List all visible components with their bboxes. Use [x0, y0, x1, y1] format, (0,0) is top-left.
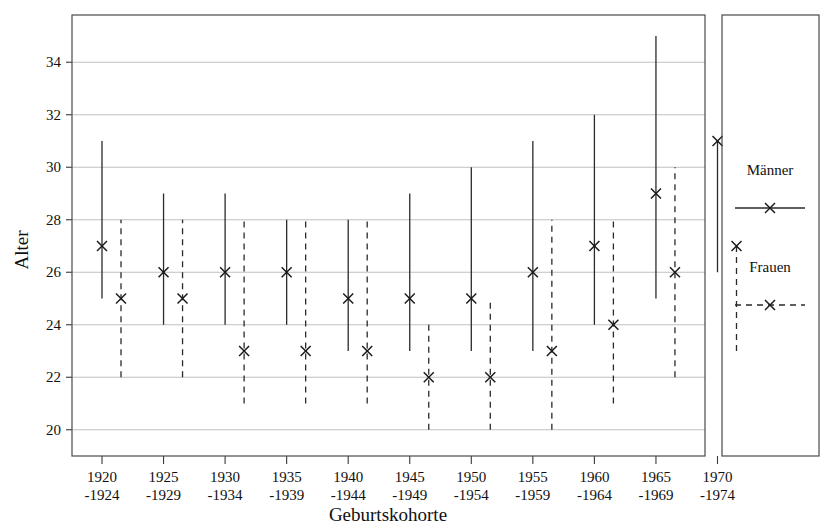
data-point-group: [528, 141, 538, 351]
x-tick-label: -1934: [208, 487, 243, 503]
gridlines: [66, 62, 705, 430]
y-tick-label: 20: [46, 422, 61, 438]
x-tick-label: 1970: [703, 469, 733, 485]
x-tick-label: -1969: [638, 487, 673, 503]
y-tick-label: 32: [46, 107, 61, 123]
x-tick-label: -1964: [577, 487, 612, 503]
x-axis-title-group: Geburtskohorte: [329, 504, 447, 525]
x-tick-label: 1960: [579, 469, 609, 485]
x-tick-label: -1929: [146, 487, 181, 503]
data-point-group: [362, 220, 372, 404]
legend-label-frauen: Frauen: [749, 259, 791, 275]
y-tick-label: 22: [46, 369, 61, 385]
legend-label-maenner: Männer: [747, 162, 794, 178]
y-tick-label: 34: [46, 54, 62, 70]
x-tick-labels: 1920-19241925-19291930-19341935-19391940…: [85, 469, 736, 503]
x-tick-marks: [102, 456, 718, 464]
x-tick-label: -1949: [392, 487, 427, 503]
x-tick-label: -1954: [454, 487, 489, 503]
x-tick-label: -1974: [700, 487, 735, 503]
y-axis-title: Alter: [11, 230, 32, 270]
data-point-group: [116, 220, 126, 378]
y-axis-title-group: Alter: [11, 230, 32, 270]
data-point-group: [178, 220, 188, 378]
y-tick-label: 24: [46, 317, 62, 333]
data-point-group: [485, 299, 495, 430]
x-tick-label: 1945: [395, 469, 425, 485]
y-tick-label: 26: [46, 264, 62, 280]
series-frauen: [116, 167, 742, 430]
x-axis-title: Geburtskohorte: [329, 504, 447, 525]
x-tick-label: 1930: [210, 469, 240, 485]
x-tick-label: 1920: [87, 469, 117, 485]
x-tick-label: 1940: [333, 469, 363, 485]
legend-content: MännerFrauen: [735, 162, 805, 310]
x-tick-label: -1939: [269, 487, 304, 503]
y-tick-label: 30: [46, 159, 61, 175]
data-point-group: [608, 220, 618, 404]
legend-box: [722, 15, 819, 456]
x-tick-label: 1950: [456, 469, 486, 485]
y-tick-labels: 2022242628303234: [46, 54, 62, 438]
data-point-group: [301, 220, 311, 404]
data-point-group: [159, 194, 169, 325]
x-tick-label: 1955: [518, 469, 548, 485]
x-tick-label: 1935: [272, 469, 302, 485]
plot-data: [97, 36, 742, 430]
series-maenner: [97, 36, 723, 351]
data-point-group: [220, 194, 230, 325]
data-point-group: [713, 136, 723, 272]
x-tick-label: -1924: [85, 487, 120, 503]
y-tick-label: 28: [46, 212, 61, 228]
plot-frame: [72, 15, 705, 456]
x-tick-label: -1944: [331, 487, 366, 503]
chart-figure: Alter Geburtskohorte 2022242628303234 19…: [0, 0, 834, 530]
data-point-group: [343, 220, 353, 351]
data-point-group: [466, 167, 476, 351]
x-tick-label: -1959: [515, 487, 550, 503]
x-tick-label: 1965: [641, 469, 671, 485]
x-tick-label: 1925: [149, 469, 179, 485]
chart-canvas: Alter Geburtskohorte 2022242628303234 19…: [0, 0, 834, 530]
data-point-group: [239, 220, 249, 404]
data-point-group: [732, 241, 742, 351]
